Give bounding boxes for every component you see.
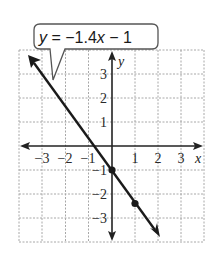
x-tick-labels: −3 −2 −1 1 2 3: [35, 151, 185, 166]
equation-callout: y = −1.4x − 1: [34, 24, 158, 80]
svg-text:−2: −2: [92, 187, 107, 202]
svg-text:2: 2: [155, 151, 162, 166]
svg-text:−1: −1: [92, 163, 107, 178]
svg-text:−3: −3: [35, 151, 50, 166]
svg-text:3: 3: [178, 151, 185, 166]
svg-text:1: 1: [132, 151, 139, 166]
point-second: [131, 200, 138, 207]
svg-text:1: 1: [100, 115, 107, 130]
svg-text:3: 3: [100, 67, 107, 82]
point-y-intercept: [108, 166, 115, 173]
equation-label: y = −1.4x − 1: [38, 29, 132, 46]
coordinate-graph: −3 −2 −1 1 2 3 3 2 1 −1 −2 −3 x y y = −1…: [0, 0, 211, 268]
svg-text:−2: −2: [58, 151, 73, 166]
svg-text:−3: −3: [92, 211, 107, 226]
y-axis-label: y: [116, 54, 125, 69]
x-axis-label: x: [194, 151, 202, 166]
svg-text:2: 2: [100, 91, 107, 106]
